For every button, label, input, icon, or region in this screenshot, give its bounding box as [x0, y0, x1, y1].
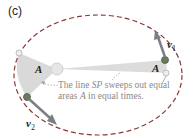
sun [51, 63, 63, 75]
area-label-right: A [152, 62, 159, 74]
swept-area-left [17, 53, 57, 97]
planet-right-top [162, 57, 169, 64]
velocity-arrow-1 [154, 30, 161, 40]
caption-line-1: The line SP sweeps out equal [58, 80, 188, 91]
caption: The line SP sweeps out equal areas A in … [58, 80, 188, 102]
planet-left-top [16, 50, 22, 56]
velocity-1-subscript: 1 [172, 44, 176, 53]
area-label-left: A [35, 63, 42, 75]
kepler-second-law-diagram: (c) A A v1 v2 The line SP sweeps out equ… [0, 0, 194, 139]
velocity-2-subscript: 2 [31, 123, 35, 132]
planet-right-bottom [163, 70, 169, 76]
caption-line-2: areas A in equal times. [58, 91, 188, 102]
panel-label: (c) [8, 4, 22, 18]
velocity-label-1: v1 [167, 38, 176, 53]
velocity-label-2: v2 [26, 117, 35, 132]
swept-area-right [57, 60, 167, 73]
